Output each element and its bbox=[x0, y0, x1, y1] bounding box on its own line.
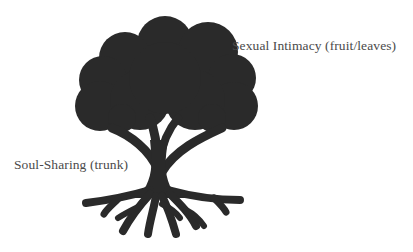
trunk-label: Soul-Sharing (trunk) bbox=[14, 157, 128, 173]
canopy-label: Sexual Intimacy (fruit/leaves) bbox=[232, 38, 396, 54]
tree-diagram: Sexual Intimacy (fruit/leaves) Soul-Shar… bbox=[0, 0, 413, 252]
tree-canopy bbox=[75, 16, 258, 132]
tree-roots bbox=[86, 190, 240, 234]
